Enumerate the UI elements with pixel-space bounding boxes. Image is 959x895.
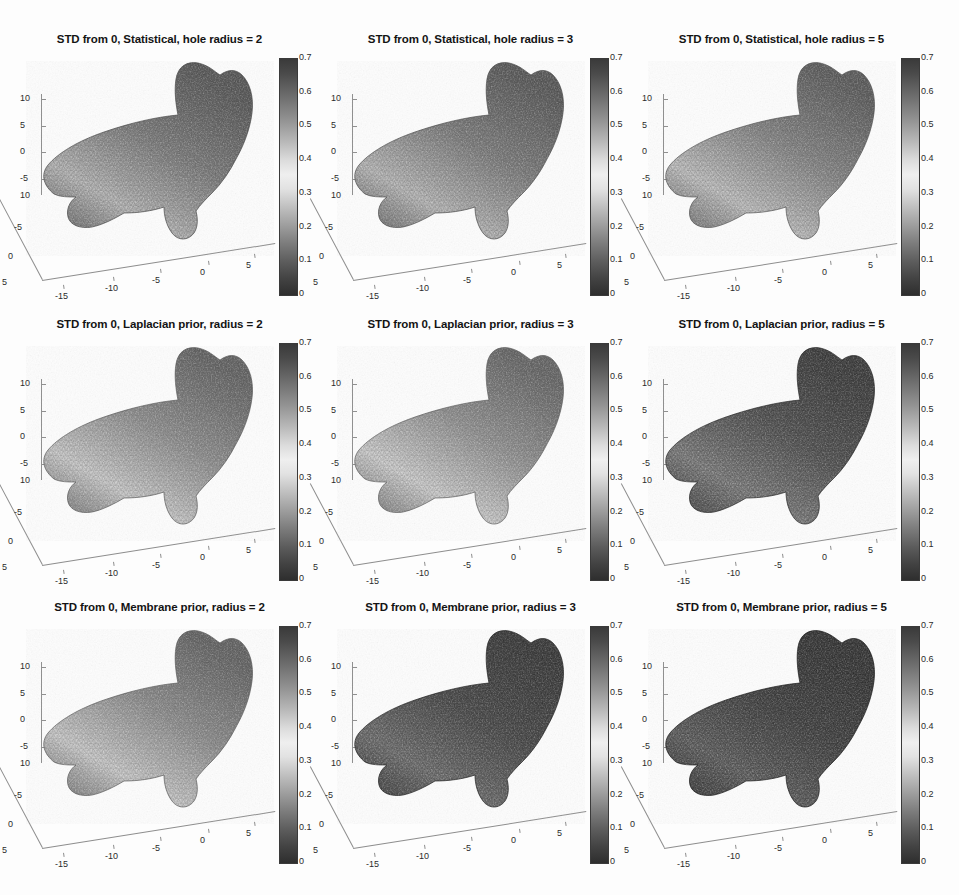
colorbar-tick-label: 0.6 [610, 654, 623, 664]
plot-axes: -15-10-50510-5051050-5 [630, 619, 898, 871]
z-axis-tick-label: 10 [642, 661, 652, 671]
colorbar-tick-label: 0.4 [299, 721, 312, 731]
y-axis-line [310, 766, 354, 848]
x-axis-tick-label: 0 [822, 835, 827, 845]
x-axis-tick [876, 822, 878, 826]
z-axis-tick [664, 179, 668, 180]
colorbar-tick-label: 0.5 [610, 119, 623, 129]
panel-title: STD from 0, Statistical, hole radius = 3 [311, 33, 630, 45]
colorbar-tick-label: 0.1 [610, 539, 623, 549]
x-axis-tick [735, 277, 737, 281]
colorbar-tick-label: 0.2 [610, 789, 623, 799]
x-axis-tick-label: 5 [557, 828, 562, 838]
x-axis-tick [374, 853, 376, 857]
plot-axes: -15-10-50510-5051050-5 [8, 619, 276, 871]
x-axis-tick [113, 845, 115, 849]
z-axis-tick [42, 747, 46, 748]
x-axis-tick-label: 0 [511, 835, 516, 845]
z-axis-tick-label: 0 [331, 146, 336, 156]
colorbar-tick-label: 0.1 [610, 254, 623, 264]
y-axis-tick-label: 10 [331, 475, 341, 485]
x-axis-tick [782, 269, 784, 273]
z-axis-tick [353, 464, 357, 465]
z-axis-tick [42, 411, 46, 412]
z-axis-tick-label: -5 [20, 458, 28, 468]
y-axis-tick-label: 10 [331, 758, 341, 768]
z-axis-tick-label: -5 [331, 741, 339, 751]
x-axis-tick [160, 554, 162, 558]
z-axis-tick-label: 0 [642, 146, 647, 156]
x-axis-tick [208, 261, 210, 265]
y-axis-line [621, 198, 665, 280]
y-axis-tick-label: 10 [20, 475, 30, 485]
x-axis-tick-label: -5 [774, 275, 782, 285]
colorbar-tick-label: 0.5 [299, 687, 312, 697]
colorbar [279, 626, 298, 864]
z-axis-tick [353, 384, 357, 385]
colorbar-tick-label: 0.7 [610, 620, 623, 630]
z-axis-tick [42, 437, 46, 438]
x-axis-tick-label: -15 [677, 576, 690, 586]
z-axis-tick-label: 10 [20, 93, 30, 103]
z-axis-tick [664, 694, 668, 695]
x-axis-tick [254, 254, 256, 258]
panel-title: STD from 0, Laplacian prior, radius = 3 [311, 318, 630, 330]
x-axis-tick [519, 261, 521, 265]
colorbar-tick-label: 0.6 [299, 654, 312, 664]
colorbar-tick-label: 0.5 [921, 404, 934, 414]
y-axis-tick-label: 5 [624, 562, 629, 572]
x-axis-tick-label: 5 [246, 828, 251, 838]
plot-axes: -15-10-50510-5051050-5 [630, 336, 898, 588]
y-axis-tick-label: 10 [20, 190, 30, 200]
x-axis-tick-label: -10 [416, 851, 429, 861]
z-axis-tick [42, 720, 46, 721]
z-axis-tick [664, 720, 668, 721]
x-axis-tick-label: -5 [152, 275, 160, 285]
x-axis-tick [471, 554, 473, 558]
colorbar-tick-label: 0.1 [610, 822, 623, 832]
colorbar-tick-label: 0.1 [299, 822, 312, 832]
y-axis-tick-label: 10 [642, 758, 652, 768]
x-axis-tick-label: 5 [246, 260, 251, 270]
y-axis-tick-label: 5 [2, 277, 7, 287]
colorbar-tick-label: 0.3 [921, 755, 934, 765]
y-axis-tick-label: 5 [313, 845, 318, 855]
z-axis-tick-label: -5 [331, 173, 339, 183]
z-axis-tick [353, 720, 357, 721]
colorbar-tick-label: 0.7 [299, 52, 312, 62]
panel-title: STD from 0, Laplacian prior, radius = 2 [0, 318, 319, 330]
z-axis-tick-label: -5 [642, 458, 650, 468]
plot-axes: -15-10-50510-5051050-5 [8, 336, 276, 588]
x-axis-tick-label: -10 [416, 568, 429, 578]
y-axis-tick-label: -5 [636, 507, 644, 517]
x-axis-tick-label: -5 [152, 843, 160, 853]
y-axis-tick-label: 5 [624, 277, 629, 287]
x-axis-tick [63, 570, 65, 574]
colorbar-tick-label: 0.3 [921, 187, 934, 197]
x-axis-tick-label: -5 [463, 560, 471, 570]
z-axis-tick [664, 126, 668, 127]
colorbar-tick-label: 0.6 [610, 86, 623, 96]
z-axis-tick [42, 464, 46, 465]
x-axis-tick [782, 837, 784, 841]
x-axis-tick [735, 845, 737, 849]
plot-axes: -15-10-50510-5051050-5 [319, 619, 587, 871]
colorbar-tick-label: 0.1 [921, 539, 934, 549]
figure-canvas: STD from 0, Statistical, hole radius = 2… [0, 0, 959, 895]
y-axis-tick-label: 5 [624, 845, 629, 855]
x-axis-tick-label: 0 [822, 552, 827, 562]
z-axis-tick [664, 99, 668, 100]
x-axis-tick [519, 829, 521, 833]
x-axis-tick [830, 261, 832, 265]
colorbar-tick-label: 0.2 [299, 221, 312, 231]
x-axis-tick [424, 277, 426, 281]
z-axis-tick-label: 0 [331, 431, 336, 441]
colorbar-tick-label: 0.3 [610, 472, 623, 482]
y-axis-tick-label: -5 [14, 790, 22, 800]
colorbar-tick-label: 0.5 [299, 119, 312, 129]
z-axis-tick-label: 10 [642, 378, 652, 388]
colorbar-tick-label: 0.5 [921, 687, 934, 697]
z-axis-tick-label: 0 [20, 431, 25, 441]
y-axis-line [0, 198, 43, 280]
x-axis-tick [685, 285, 687, 289]
